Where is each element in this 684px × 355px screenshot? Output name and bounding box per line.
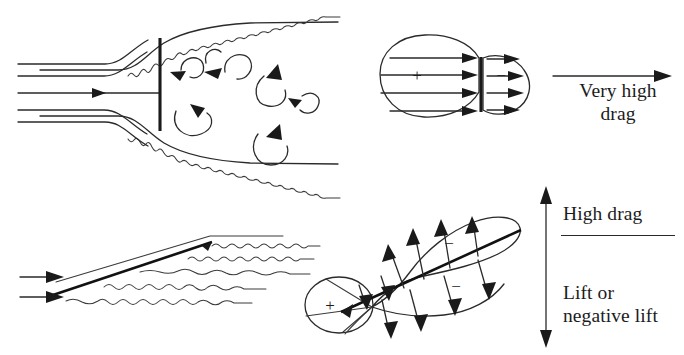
inclined-flat-plate: [53, 242, 212, 295]
wake-wavy-line-2: [188, 257, 314, 261]
lift-caption-line2: negative lift: [563, 305, 658, 326]
lower-minus-sign: −: [451, 277, 461, 296]
vortex-1-arrowhead: [170, 71, 186, 81]
inclined-plus-sign: +: [325, 296, 335, 315]
blunt-body-minus-sign: −: [496, 66, 506, 85]
lift-drag-axis-arrowhead-up: [540, 186, 552, 204]
panel-bottom-left: [20, 236, 320, 305]
upper-minus-sign: −: [444, 234, 454, 253]
vortex-3-arrowhead: [266, 64, 282, 80]
rear-pressure-arrowhead-4: [504, 105, 520, 115]
duct-upper-wall-outer: [40, 22, 338, 70]
streamline-1: [18, 40, 148, 64]
vortex-3: [256, 76, 286, 106]
streamline-5: [18, 122, 148, 146]
vortex-4-arrowhead: [190, 104, 205, 118]
radial-line-2: [306, 307, 372, 316]
front-pressure-arrowhead-1: [462, 53, 478, 63]
rear-pressure-arrowhead-3: [508, 88, 524, 98]
vortex-6-arrowhead: [266, 124, 282, 140]
upper-suction-arrowhead-2: [406, 228, 420, 246]
lower-suction-arrowhead-2: [414, 314, 428, 332]
wake-wavy-line-5: [66, 299, 252, 305]
front-pressure-arrowhead-4: [462, 106, 478, 116]
lower-suction-arrowhead-3: [448, 298, 462, 316]
very-high-drag-caption: Very high drag: [556, 80, 680, 125]
vortex-1: [181, 58, 204, 78]
lift-or-negative-lift-caption: Lift or negative lift: [563, 281, 658, 328]
high-drag-caption: High drag: [563, 203, 642, 226]
inclined-upper-streamline: [56, 236, 283, 282]
lift-caption-line1: Lift or: [563, 282, 614, 303]
wake-wavy-line-3: [140, 269, 310, 275]
vortex-5: [300, 93, 319, 113]
wake-wavy-line-4: [104, 285, 266, 291]
lift-drag-axis-arrowhead-down: [540, 330, 552, 348]
panel-bottom-right: +: [305, 186, 552, 348]
upper-suction-line-2: [416, 240, 424, 279]
duct-lower-wall-outer: [40, 116, 338, 164]
vortex-2-arrowhead: [204, 68, 222, 79]
vortex-2: [225, 55, 252, 79]
vortex-6: [254, 134, 288, 165]
upper-suction-line-1: [392, 255, 404, 288]
caption-divider-line: [561, 235, 675, 236]
wake-wavy-line-1: [212, 244, 320, 248]
vortex-4: [175, 111, 212, 136]
streamline-center-arrowhead: [92, 88, 106, 98]
lower-suction-arrowhead-4: [482, 282, 496, 300]
vortex-7: [206, 49, 221, 63]
figure-root: + −: [0, 0, 684, 355]
rear-pressure-arrowhead-2: [508, 71, 524, 81]
blunt-body-plus-sign: +: [412, 66, 422, 85]
vortex-5-arrowhead: [288, 98, 302, 108]
front-pressure-arrowhead-2: [462, 70, 478, 80]
blunt-body-rear-outline: [483, 56, 530, 114]
leading-edge-pressure-circle: [305, 277, 373, 333]
very-high-drag-line2: drag: [600, 103, 635, 124]
panel-top-left: [18, 17, 340, 199]
plate-leading-edge-marker: [341, 304, 353, 318]
duct-lower-wall-wavy: [128, 138, 340, 198]
very-high-drag-line1: Very high: [579, 80, 656, 101]
lower-suction-arrowhead-1: [384, 321, 398, 339]
inflow-arrowhead-1: [46, 271, 64, 283]
